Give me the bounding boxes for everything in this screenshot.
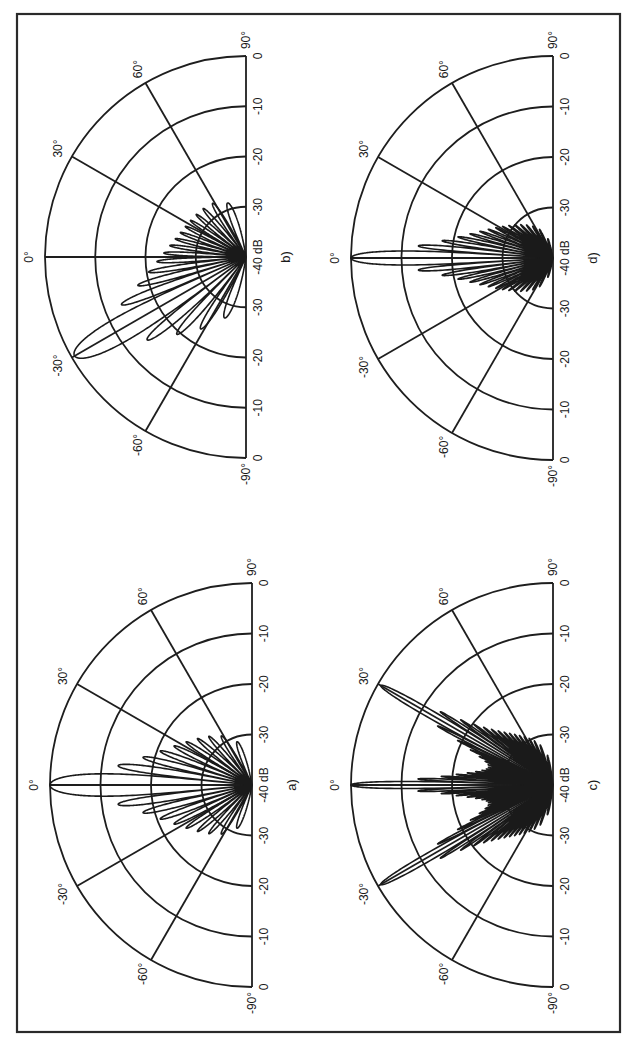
radial-tick-label: -20 [558, 350, 572, 368]
center-db-label: -40 dB [558, 767, 572, 802]
spoke--30 [378, 785, 553, 886]
angle-label: -90° [546, 992, 560, 1014]
angle-label: -90° [245, 992, 259, 1014]
radial-tick-label: -10 [251, 399, 265, 417]
radial-tick-label: -30 [558, 300, 572, 318]
radial-tick-label: -30 [558, 726, 572, 744]
angle-label: -30° [51, 354, 65, 376]
panel-label-d: d) [585, 252, 600, 264]
radial-tick-label: -30 [257, 827, 271, 845]
angle-label: -90° [239, 463, 253, 485]
radial-tick-label: -10 [558, 401, 572, 419]
polar-plot-b: -90°-60°-30°0°30°60°90°0-10-20-30-30-20-… [22, 31, 293, 485]
angle-label: 30° [357, 667, 371, 685]
radial-tick-label: 0 [251, 52, 265, 59]
angle-label: -90° [546, 465, 560, 487]
angle-label: -30° [56, 883, 70, 905]
radial-tick-label: -20 [558, 877, 572, 895]
angle-label: 90° [239, 31, 253, 49]
radial-tick-label: 0 [558, 983, 572, 990]
radial-tick-label: -10 [558, 98, 572, 116]
angle-label: 30° [357, 140, 371, 158]
radial-tick-label: 0 [257, 983, 271, 990]
spoke-30 [378, 684, 553, 785]
angle-label: 60° [437, 60, 451, 78]
center-db-label: -40 dB [257, 767, 271, 802]
radial-tick-label: 0 [251, 454, 265, 461]
polar-plot-d: -90°-60°-30°0°30°60°90°0-10-20-30-30-20-… [328, 31, 600, 487]
angle-label: 90° [546, 31, 560, 49]
radial-tick-label: 0 [558, 579, 572, 586]
angle-label: 0° [22, 251, 36, 263]
angle-label: -60° [136, 963, 150, 985]
radial-tick-label: 0 [558, 456, 572, 463]
angle-label: 0° [328, 779, 342, 791]
spoke--60 [151, 785, 252, 960]
angle-label: -30° [357, 356, 371, 378]
panel-label-a: a) [284, 779, 299, 791]
angle-label: -60° [437, 436, 451, 458]
radial-tick-label: -30 [251, 298, 265, 316]
angle-label: -60° [437, 963, 451, 985]
radial-tick-label: -10 [257, 928, 271, 946]
radial-tick-label: -20 [251, 148, 265, 166]
radial-tick-label: 0 [558, 52, 572, 59]
figure-frame [17, 14, 620, 1032]
radial-tick-label: 0 [257, 579, 271, 586]
radial-tick-label: -20 [257, 675, 271, 693]
radial-tick-label: -30 [558, 827, 572, 845]
center-db-label: -40 dB [558, 240, 572, 275]
polar-plot-c: -90°-60°-30°0°30°60°90°0-10-20-30-30-20-… [328, 558, 600, 1014]
radial-tick-label: -20 [251, 349, 265, 367]
angle-label: -60° [131, 434, 145, 456]
figure-canvas: -90°-60°-30°0°30°60°90°0-10-20-30-30-20-… [0, 0, 637, 1049]
angle-label: 60° [437, 587, 451, 605]
angle-label: 30° [56, 667, 70, 685]
angle-label: 60° [131, 60, 145, 78]
radial-tick-label: -20 [558, 675, 572, 693]
angle-label: 90° [245, 558, 259, 576]
angle-label: 0° [328, 252, 342, 264]
radial-tick-label: -30 [251, 198, 265, 216]
panel-label-c: c) [585, 780, 600, 791]
polar-plot-a: -90°-60°-30°0°30°60°90°0-10-20-30-30-20-… [27, 558, 299, 1014]
radial-tick-label: -10 [251, 97, 265, 115]
angle-label: -30° [357, 883, 371, 905]
radial-tick-label: -30 [257, 726, 271, 744]
spoke--60 [146, 257, 247, 431]
radial-tick-label: -20 [558, 148, 572, 166]
radial-tick-label: -10 [558, 625, 572, 643]
angle-label: 60° [136, 587, 150, 605]
radial-tick-label: -10 [558, 928, 572, 946]
radiation-pattern-curve [74, 203, 246, 358]
radial-tick-label: -30 [558, 199, 572, 217]
radial-tick-label: -20 [257, 877, 271, 895]
angle-label: 90° [546, 558, 560, 576]
center-db-label: -40 dB [251, 239, 265, 274]
angle-label: 0° [27, 779, 41, 791]
radial-tick-label: -10 [257, 625, 271, 643]
spoke-60 [151, 610, 252, 785]
panel-label-b: b) [278, 251, 293, 263]
angle-label: 30° [51, 139, 65, 157]
